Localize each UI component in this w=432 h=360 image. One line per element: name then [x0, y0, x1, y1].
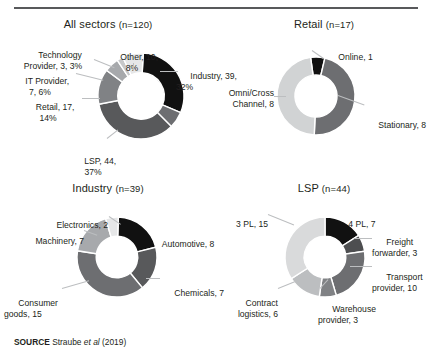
- label-consumer-goods-text: Consumer goods, 15: [4, 298, 58, 318]
- leader-transport-provider: [350, 266, 372, 267]
- panel-lsp: LSP (n=44) 4 PL, 7 Freight forwarder, 3 …: [216, 182, 432, 332]
- source-etal: et al: [84, 337, 100, 347]
- label-contract-logistics: Contract logistics, 6: [212, 288, 278, 330]
- leader-other: [133, 63, 134, 71]
- source-year: (2019): [102, 337, 126, 347]
- label-contract-logistics-text: Contract logistics, 6: [238, 298, 278, 318]
- label-automotive-text: Automotive, 8: [162, 239, 215, 249]
- label-chemicals: Chemicals, 7: [160, 278, 220, 309]
- panel-title-sample-size: (n=44): [322, 183, 350, 194]
- label-3pl-text: 3 PL, 15: [236, 219, 268, 229]
- leader-omni-cross-channel: [274, 96, 286, 97]
- label-warehouse-provider-text: Warehouse provider, 3: [318, 304, 376, 324]
- donut-slice-3pl: [285, 217, 325, 279]
- label-electronics: Electronics, 2: [24, 210, 108, 241]
- label-consumer-goods: Consumer goods, 15: [4, 288, 74, 330]
- panel-all-sectors: All sectors (n=120) Industry, 39, 32% Ot…: [0, 16, 216, 180]
- panel-title-industry: Industry (n=39): [0, 182, 216, 194]
- panel-title-sample-size: (n=120): [119, 19, 153, 30]
- leader-chemicals: [146, 278, 160, 279]
- panel-title-text: LSP: [298, 182, 319, 194]
- panel-industry: Industry (n=39) Automotive, 8 Chemicals,…: [0, 182, 216, 332]
- panel-title-sample-size: (n=17): [326, 19, 354, 30]
- label-electronics-text: Electronics, 2: [56, 220, 108, 230]
- source-author: Straube: [52, 337, 81, 347]
- panel-title-text: Industry: [72, 182, 112, 194]
- panel-retail: Retail (n=17) Online, 1 Stationary, 8 Om…: [216, 16, 432, 180]
- label-freight-forwarder-text: Freight forwarder, 3: [372, 237, 417, 257]
- label-other: Other, 10, 8%: [104, 42, 160, 84]
- label-lsp-text: LSP, 44, 37%: [84, 156, 116, 176]
- label-other-text: Other, 10, 8%: [120, 52, 158, 72]
- label-warehouse-provider: Warehouse provider, 3: [318, 294, 388, 336]
- label-omni-cross-channel-text: Omni/Cross Channel, 8: [229, 88, 274, 108]
- label-omni-cross-channel: Omni/Cross Channel, 8: [200, 78, 274, 120]
- top-divider-rule: [14, 7, 418, 9]
- panel-title-sample-size: (n=39): [115, 183, 143, 194]
- leader-freight-forwarder: [354, 238, 372, 239]
- label-online-text: Online, 1: [338, 52, 372, 62]
- panel-title-text: Retail: [294, 18, 323, 30]
- leader-retail: [82, 98, 100, 99]
- figure-root: All sectors (n=120) Industry, 39, 32% Ot…: [0, 0, 432, 360]
- panel-title-retail: Retail (n=17): [216, 18, 432, 30]
- label-stationary-text: Stationary, 8: [378, 120, 426, 130]
- panel-title-lsp: LSP (n=44): [216, 182, 432, 194]
- label-retail: Retail, 17, 14%: [10, 92, 86, 134]
- leader-industry: [160, 71, 178, 72]
- source-prefix: SOURCE: [14, 337, 50, 347]
- donut-slice-lsp: [99, 100, 172, 139]
- source-note: SOURCE Straube et al (2019): [14, 337, 126, 347]
- label-3pl: 3 PL, 15: [202, 209, 268, 240]
- panel-title-text: All sectors: [64, 18, 116, 30]
- panel-title-all-sectors: All sectors (n=120): [0, 18, 216, 30]
- label-online: Online, 1: [324, 42, 384, 73]
- label-stationary: Stationary, 8: [364, 110, 432, 141]
- label-retail-text: Retail, 17, 14%: [36, 102, 75, 122]
- label-transport-provider-text: Transport provider, 10: [372, 272, 423, 292]
- donut-slice-transport-provider: [331, 251, 365, 295]
